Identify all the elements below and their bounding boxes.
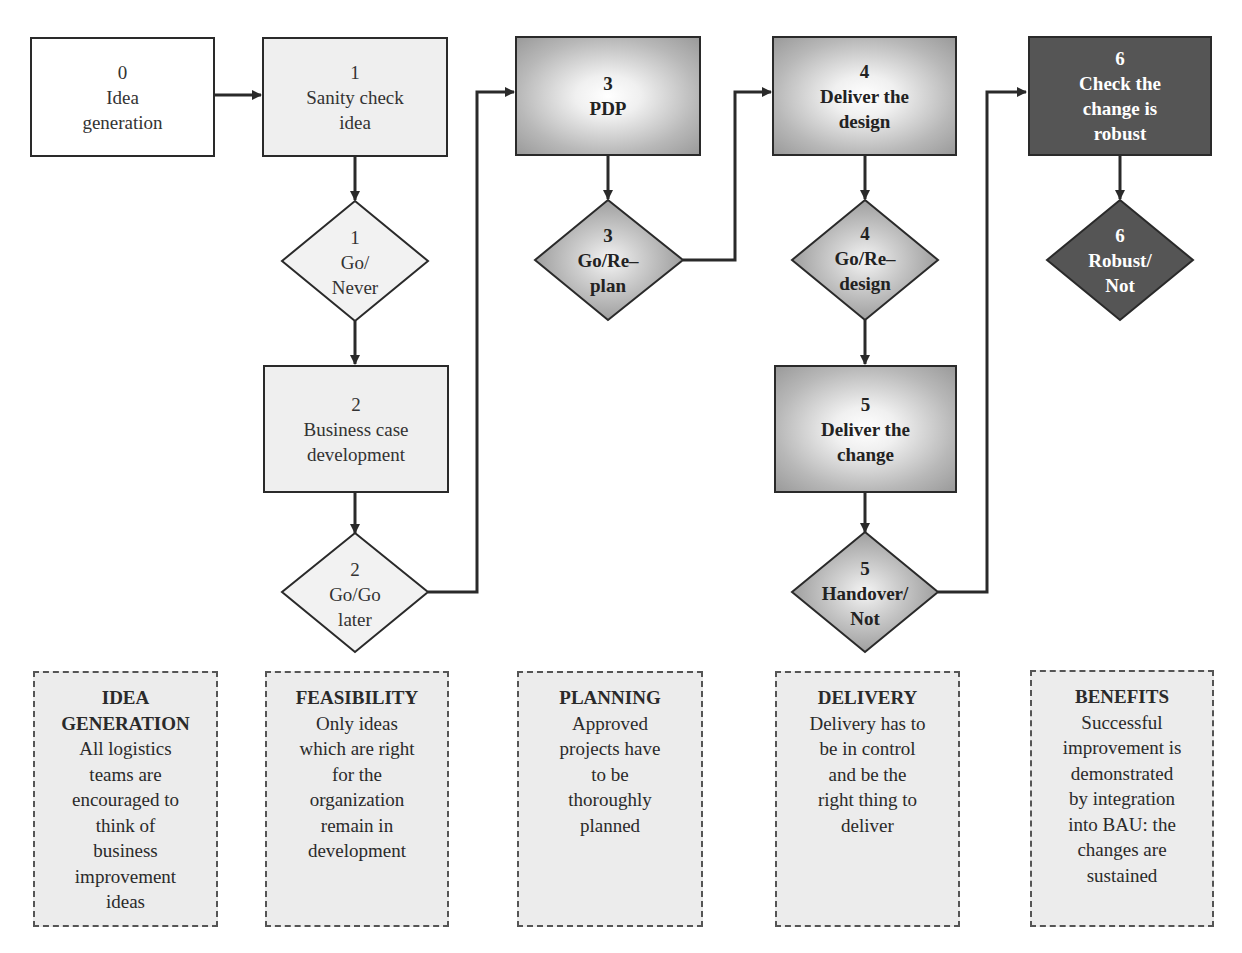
phase-body-line: demonstrated xyxy=(1032,761,1212,787)
step-label-line: robust xyxy=(1094,121,1146,146)
decision-label-line: Go/Go xyxy=(329,582,381,607)
decision-label-line: later xyxy=(338,607,372,632)
step-label-line: design xyxy=(839,109,891,134)
decision-gate5-label: 5 Handover/ Not xyxy=(800,554,930,632)
phase-title: DELIVERY xyxy=(777,685,958,711)
phase-body-line: remain in xyxy=(267,813,447,839)
step-label-line: Business case xyxy=(303,417,408,442)
phase-body-line: right thing to xyxy=(777,787,958,813)
phase-body-line: for the xyxy=(267,762,447,788)
phase-body-line: teams are xyxy=(35,762,216,788)
phase-title: GENERATION xyxy=(35,711,216,737)
step-label-line: change xyxy=(837,442,894,467)
phase-note-idea-generation: IDEA GENERATION All logistics teams are … xyxy=(33,671,218,927)
phase-title: IDEA xyxy=(35,685,216,711)
phase-body-line: planned xyxy=(519,813,701,839)
step-label-line: Sanity check xyxy=(306,85,404,110)
phase-body-line: which are right xyxy=(267,736,447,762)
step-label-line: Check the xyxy=(1079,71,1161,96)
decision-label-line: Go/Re– xyxy=(577,248,638,273)
step-label-line: generation xyxy=(82,110,162,135)
decision-gate2-label: 2 Go/Go later xyxy=(295,555,415,633)
decision-gate3-label: 3 Go/Re– plan xyxy=(548,221,668,299)
phase-body-line: Only ideas xyxy=(267,711,447,737)
phase-body-line: Delivery has to xyxy=(777,711,958,737)
decision-label-line: Not xyxy=(850,606,880,631)
decision-label-line: Never xyxy=(332,275,378,300)
phase-body-line: thoroughly xyxy=(519,787,701,813)
phase-title: BENEFITS xyxy=(1032,684,1212,710)
step-label-line: development xyxy=(307,442,405,467)
phase-body-line: encouraged to xyxy=(35,787,216,813)
step-2-business-case: 2 Business case development xyxy=(263,365,449,493)
decision-label-line: Robust/ xyxy=(1088,248,1151,273)
phase-body-line: Successful xyxy=(1032,710,1212,736)
phase-body-line: development xyxy=(267,838,447,864)
step-4-deliver-design: 4 Deliver the design xyxy=(772,36,957,156)
step-label-line: PDP xyxy=(590,96,627,121)
phase-body-line: think of xyxy=(35,813,216,839)
phase-body-line: deliver xyxy=(777,813,958,839)
phase-body-line: business xyxy=(35,838,216,864)
phase-body-line: into BAU: the xyxy=(1032,812,1212,838)
decision-label-line: Handover/ xyxy=(822,581,909,606)
phase-note-delivery: DELIVERY Delivery has to be in control a… xyxy=(775,671,960,927)
step-3-pdp: 3 PDP xyxy=(515,36,701,156)
decision-number: 5 xyxy=(860,556,870,581)
decision-number: 1 xyxy=(350,225,360,250)
step-5-deliver-change: 5 Deliver the change xyxy=(774,365,957,493)
decision-number: 2 xyxy=(350,557,360,582)
decision-label-line: design xyxy=(839,271,891,296)
phase-body-line: and be the xyxy=(777,762,958,788)
step-number: 0 xyxy=(118,60,128,85)
step-number: 5 xyxy=(861,392,871,417)
decision-number: 6 xyxy=(1115,223,1125,248)
phase-note-feasibility: FEASIBILITY Only ideas which are right f… xyxy=(265,671,449,927)
phase-note-planning: PLANNING Approved projects have to be th… xyxy=(517,671,703,927)
decision-label-line: Go/Re– xyxy=(834,246,895,271)
connector-gate5-6 xyxy=(938,92,1026,592)
phase-body-line: All logistics xyxy=(35,736,216,762)
phase-body-line: ideas xyxy=(35,889,216,915)
step-number: 2 xyxy=(351,392,361,417)
phase-body-line: be in control xyxy=(777,736,958,762)
step-6-check-robust: 6 Check the change is robust xyxy=(1028,36,1212,156)
decision-label-line: plan xyxy=(590,273,626,298)
step-label-line: idea xyxy=(339,110,371,135)
phase-title: PLANNING xyxy=(519,685,701,711)
decision-gate6-label: 6 Robust/ Not xyxy=(1060,221,1180,299)
step-label-line: Idea xyxy=(106,85,139,110)
decision-number: 4 xyxy=(860,221,870,246)
phase-body-line: improvement is xyxy=(1032,735,1212,761)
phase-body-line: changes are xyxy=(1032,837,1212,863)
phase-body-line: improvement xyxy=(35,864,216,890)
decision-label-line: Go/ xyxy=(341,250,370,275)
phase-body-line: to be xyxy=(519,762,701,788)
phase-title: FEASIBILITY xyxy=(267,685,447,711)
phase-body-line: Approved xyxy=(519,711,701,737)
step-number: 1 xyxy=(350,60,360,85)
decision-label-line: Not xyxy=(1105,273,1135,298)
phase-note-benefits: BENEFITS Successful improvement is demon… xyxy=(1030,670,1214,927)
phase-body-line: by integration xyxy=(1032,786,1212,812)
phase-body-line: organization xyxy=(267,787,447,813)
phase-body-line: projects have xyxy=(519,736,701,762)
step-number: 4 xyxy=(860,59,870,84)
decision-number: 3 xyxy=(603,223,613,248)
step-number: 3 xyxy=(603,71,613,96)
step-number: 6 xyxy=(1115,46,1125,71)
step-0-idea-generation: 0 Idea generation xyxy=(30,37,215,157)
step-label-line: Deliver the xyxy=(821,417,910,442)
decision-gate1-label: 1 Go/ Never xyxy=(295,223,415,301)
connector-gate2-3 xyxy=(428,92,514,592)
decision-gate4-label: 4 Go/Re– design xyxy=(805,219,925,297)
step-1-sanity-check: 1 Sanity check idea xyxy=(262,37,448,157)
phase-body-line: sustained xyxy=(1032,863,1212,889)
step-label-line: Deliver the xyxy=(820,84,909,109)
step-label-line: change is xyxy=(1083,96,1157,121)
